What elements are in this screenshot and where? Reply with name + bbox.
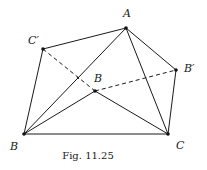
label-bprime: B′ (183, 62, 195, 75)
point-cprime (41, 47, 45, 51)
point-bprime (174, 68, 178, 72)
label-binner: B (93, 72, 102, 85)
label-c: C (176, 139, 185, 152)
segment-a-bprime (126, 28, 176, 70)
point-a (124, 26, 128, 30)
segment-binner-c (95, 91, 168, 134)
label-cprime: C′ (28, 34, 39, 47)
segment-bprime-c (168, 70, 176, 134)
label-a: A (122, 7, 131, 20)
dashed-segment-cprime-binner (43, 49, 95, 91)
dashed-segments (43, 49, 176, 91)
geometry-figure: AC′B′BBC Fig. 11.25 (0, 0, 207, 170)
segment-cprime-a (43, 28, 126, 49)
point-b (22, 132, 26, 136)
point-binner (93, 89, 97, 93)
point-x (77, 77, 79, 79)
label-b: B (9, 140, 18, 153)
segment-cprime-b (24, 49, 43, 134)
point-c (166, 132, 170, 136)
segment-b-a (24, 28, 126, 134)
dashed-segment-binner-bprime (95, 70, 176, 91)
figure-caption: Fig. 11.25 (62, 150, 114, 161)
